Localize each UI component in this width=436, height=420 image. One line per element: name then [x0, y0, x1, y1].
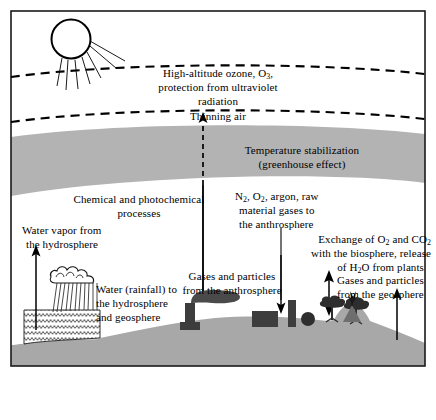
- rainfall-label-line3: and geosphere: [96, 311, 161, 324]
- chemical-processes-label-line2: processes: [117, 207, 160, 220]
- factory-building-icon: [252, 311, 278, 327]
- anthrosphere-gases-label-line2: material gases to: [239, 204, 315, 217]
- ozone-label-line3: radiation: [198, 95, 238, 108]
- greenhouse-label-line1: Temperature stabilization: [245, 144, 359, 157]
- ozone-label-line2: protection from ultraviolet: [158, 81, 277, 94]
- ozone-label: High-altitude ozone, O3,: [163, 67, 273, 82]
- biosphere-exchange-label-line1: Exchange of O2 and CO2: [318, 233, 431, 248]
- anthrosphere-particles-label-line1: Gases and particles: [189, 270, 276, 283]
- atmosphere-diagram-figure: High-altitude ozone, O3, protection from…: [0, 0, 436, 420]
- chemical-processes-label-line1: Chemical and photochemical: [74, 193, 205, 206]
- anthrosphere-gases-label-line1: N2, O2, argon, raw: [235, 190, 318, 205]
- greenhouse-label-line2: (greenhouse effect): [259, 158, 346, 171]
- geosphere-particles-label-line2: from the geosphere: [337, 288, 424, 301]
- water-vapor-label-line2: the hydrosphere: [26, 238, 98, 251]
- factory-tower-icon: [288, 300, 296, 327]
- anthrosphere-particles-label-line2: from the anthrosphere: [182, 284, 281, 297]
- geosphere-particles-label-line1: Gases and particles: [337, 274, 424, 287]
- dome-building-icon: [301, 312, 315, 326]
- water-vapor-label-line1: Water vapor from: [22, 224, 102, 237]
- rainfall-label-line2: the hydrosphere: [96, 297, 168, 310]
- rainfall-label-line1: Water (rainfall) to: [96, 283, 177, 296]
- diagram-canvas: [0, 0, 436, 420]
- sun-icon: [52, 20, 91, 59]
- thinning-air-label: Thinning air: [190, 110, 246, 123]
- anthrosphere-gases-label-line3: the anthrosphere: [239, 218, 314, 231]
- biosphere-exchange-label-line2: with the biosphere, release: [311, 247, 431, 260]
